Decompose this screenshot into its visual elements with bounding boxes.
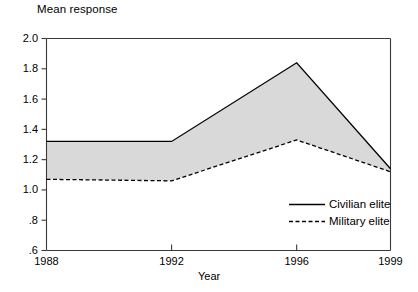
x-tick-label: 1992 xyxy=(142,256,202,267)
y-tick-label: 1.4 xyxy=(12,124,38,135)
x-tick-label: 1996 xyxy=(267,256,327,267)
chart-container: Mean response .6.81.01.21.41.61.82.0 198… xyxy=(0,0,418,292)
legend-label-civilian-elite: Civilian elite xyxy=(329,198,390,210)
x-tick-label: 1988 xyxy=(17,256,77,267)
y-tick-label: .8 xyxy=(12,215,38,226)
y-tick-label: 2.0 xyxy=(12,33,38,44)
legend-label-military-elite: Military elite xyxy=(329,215,390,227)
x-axis-title: Year xyxy=(198,270,220,282)
y-tick-label: 1.2 xyxy=(12,154,38,165)
y-tick-label: 1.6 xyxy=(12,94,38,105)
area-between-series xyxy=(47,63,391,181)
chart-plot-area xyxy=(0,0,418,292)
x-tick-label: 1999 xyxy=(361,256,418,267)
y-tick-label: 1.8 xyxy=(12,63,38,74)
y-tick-label: 1.0 xyxy=(12,184,38,195)
